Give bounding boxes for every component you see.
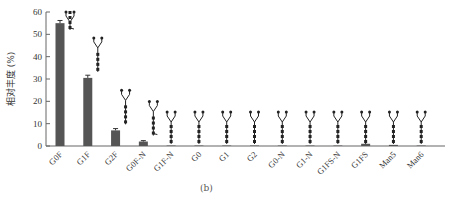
glycan-structure-icon — [332, 111, 343, 145]
y-tick-label: 0 — [38, 141, 43, 151]
x-tick-label: Man5 — [377, 149, 398, 170]
y-tick-label: 20 — [33, 96, 43, 106]
x-tick-label: G0 — [189, 149, 203, 163]
glycan-structure-icon — [221, 111, 232, 145]
x-tick-label: G0F-N — [124, 149, 148, 173]
bar — [389, 145, 398, 146]
bar-group — [332, 111, 343, 147]
bar-group — [305, 111, 316, 147]
y-tick-label: 50 — [33, 29, 43, 39]
glycan-structure-icon — [92, 36, 103, 71]
glycan-structure-icon — [166, 111, 177, 145]
bar — [56, 23, 65, 146]
glycan-structure-icon — [193, 111, 204, 145]
x-tick-label: G1F-N — [151, 149, 175, 173]
glycan-structure-icon — [277, 111, 288, 145]
x-tick-label: G2F — [102, 149, 120, 167]
bar-group — [56, 11, 76, 147]
bar-group — [221, 111, 232, 147]
glycan-structure-icon — [249, 111, 260, 145]
y-tick-label: 10 — [33, 119, 43, 129]
glycan-structure-icon — [360, 111, 371, 145]
y-tick-label: 40 — [33, 52, 43, 62]
x-tick-label: Man6 — [405, 149, 426, 170]
x-tick-label: G0-N — [266, 149, 287, 170]
bar — [361, 144, 370, 146]
glycan-structure-icon — [388, 111, 399, 145]
bar-group — [111, 89, 131, 146]
bar-group — [166, 111, 177, 147]
bar — [111, 130, 120, 146]
bar-chart: 0102030405060相对丰度 (%)G0FG1FG2FG0F-NG1F-N… — [0, 0, 455, 201]
bar-group — [139, 100, 159, 146]
bar-group — [83, 36, 103, 146]
bar — [83, 78, 92, 146]
glycan-structure-icon — [148, 100, 159, 136]
bar-group — [416, 111, 427, 147]
x-tick-label: G2 — [244, 149, 258, 163]
bar-group — [193, 111, 204, 147]
glycan-structure-icon — [305, 111, 316, 145]
x-tick-label: G0F — [47, 149, 65, 167]
y-tick-label: 60 — [33, 7, 43, 17]
bar-group — [249, 111, 260, 147]
glycan-structure-icon — [120, 89, 131, 125]
x-tick-label: G1F — [74, 149, 92, 167]
y-axis-label: 相对丰度 (%) — [5, 52, 16, 106]
glycan-structure-icon — [416, 111, 427, 145]
x-tick-label: G1-N — [294, 149, 315, 170]
bar — [139, 142, 148, 146]
x-tick-label: G1FS-N — [315, 149, 342, 176]
glycan-structure-icon — [65, 11, 76, 31]
subfigure-label: (b) — [200, 183, 213, 193]
y-tick-label: 30 — [33, 74, 43, 84]
x-tick-label: G1 — [217, 149, 231, 163]
bar-group — [277, 111, 288, 147]
bar-group — [360, 111, 371, 147]
x-tick-label: G1FS — [349, 149, 370, 170]
bar-group — [388, 111, 399, 147]
